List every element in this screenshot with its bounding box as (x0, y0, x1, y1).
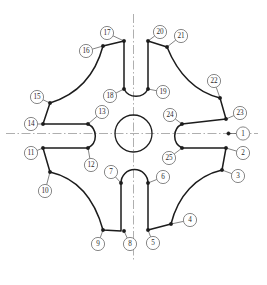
balloon-label-12: 12 (87, 161, 95, 169)
leader-lines-group (37, 36, 237, 238)
balloon-label-3: 3 (236, 172, 240, 180)
vertex-node (224, 146, 227, 149)
balloon-4[interactable]: 4 (183, 213, 196, 226)
balloon-2[interactable]: 2 (236, 146, 249, 159)
balloon-label-14: 14 (27, 120, 35, 128)
balloon-label-24: 24 (166, 111, 174, 119)
balloon-label-1: 1 (241, 130, 245, 138)
balloon-callouts-group: 1234567891011121314151617181920212223242… (24, 25, 249, 250)
part-outline (43, 41, 226, 231)
leader-line-10 (47, 172, 50, 185)
vertex-node (227, 132, 230, 135)
vertex-node (122, 229, 125, 232)
balloon-label-19: 19 (159, 88, 167, 96)
balloon-label-23: 23 (236, 109, 244, 117)
balloon-label-13: 13 (98, 108, 106, 116)
vertex-node (41, 146, 44, 149)
vertex-node (122, 87, 125, 90)
balloon-label-8: 8 (128, 240, 132, 248)
vertex-node (180, 122, 183, 125)
balloon-21[interactable]: 21 (174, 29, 187, 42)
vertex-node (220, 168, 223, 171)
balloon-12[interactable]: 12 (84, 158, 97, 171)
vertex-node (169, 222, 172, 225)
balloon-label-4: 4 (188, 216, 192, 224)
balloon-8[interactable]: 8 (123, 237, 136, 250)
balloon-15[interactable]: 15 (30, 90, 43, 103)
balloon-7[interactable]: 7 (104, 165, 117, 178)
centerlines-group (6, 14, 258, 262)
vertex-node (48, 170, 51, 173)
balloon-label-10: 10 (41, 187, 49, 195)
balloon-label-25: 25 (165, 154, 173, 162)
balloon-16[interactable]: 16 (79, 44, 92, 57)
vertex-node (146, 181, 149, 184)
balloon-label-2: 2 (241, 149, 245, 157)
vertex-node (48, 101, 51, 104)
vertex-node (119, 181, 122, 184)
balloon-label-5: 5 (151, 239, 155, 247)
balloon-10[interactable]: 10 (38, 184, 51, 197)
vertex-node (41, 122, 44, 125)
balloon-14[interactable]: 14 (24, 117, 37, 130)
balloon-18[interactable]: 18 (103, 89, 116, 102)
vertex-node (122, 39, 125, 42)
vertex-node (146, 39, 149, 42)
balloon-label-9: 9 (96, 240, 100, 248)
balloon-25[interactable]: 25 (162, 151, 175, 164)
vertex-node (218, 96, 221, 99)
vertex-nodes-group (41, 39, 230, 232)
vertex-node (146, 228, 149, 231)
balloon-label-16: 16 (82, 47, 90, 55)
vertex-node (86, 122, 89, 125)
balloon-1[interactable]: 1 (236, 127, 249, 140)
vertex-node (224, 117, 227, 120)
technical-drawing-canvas: 1234567891011121314151617181920212223242… (0, 0, 267, 285)
balloon-22[interactable]: 22 (207, 74, 220, 87)
balloon-label-17: 17 (103, 29, 111, 37)
balloon-6[interactable]: 6 (156, 170, 169, 183)
vertex-node (101, 228, 104, 231)
balloon-3[interactable]: 3 (231, 169, 244, 182)
balloon-5[interactable]: 5 (146, 236, 159, 249)
vertex-node (146, 87, 149, 90)
balloon-24[interactable]: 24 (163, 108, 176, 121)
balloon-17[interactable]: 17 (100, 26, 113, 39)
vertex-node (101, 44, 104, 47)
vertex-node (86, 146, 89, 149)
balloon-19[interactable]: 19 (156, 85, 169, 98)
vertex-node (165, 45, 168, 48)
balloon-20[interactable]: 20 (153, 25, 166, 38)
balloon-label-21: 21 (177, 32, 185, 40)
balloon-label-22: 22 (210, 77, 218, 85)
vertex-node (180, 146, 183, 149)
balloon-label-11: 11 (28, 149, 35, 157)
balloon-label-6: 6 (161, 173, 165, 181)
balloon-label-15: 15 (33, 93, 41, 101)
balloon-label-20: 20 (156, 28, 164, 36)
balloon-11[interactable]: 11 (24, 146, 37, 159)
balloon-label-7: 7 (109, 168, 113, 176)
drawing-svg: 1234567891011121314151617181920212223242… (0, 0, 267, 285)
balloon-label-18: 18 (106, 92, 114, 100)
balloon-9[interactable]: 9 (91, 237, 104, 250)
balloon-13[interactable]: 13 (95, 105, 108, 118)
balloon-23[interactable]: 23 (233, 106, 246, 119)
